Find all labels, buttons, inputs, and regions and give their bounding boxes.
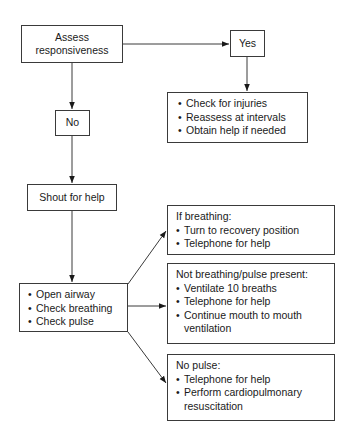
- edge-abc-no-pulse: [128, 332, 166, 383]
- assess-line1: Assess: [55, 31, 89, 45]
- no-node: No: [55, 110, 90, 136]
- yes-node: Yes: [230, 30, 265, 57]
- abc-item: Open airway: [28, 288, 121, 302]
- no-pulse-item: Telephone for help: [176, 373, 328, 387]
- if-breathing-item: Turn to recovery position: [176, 224, 328, 238]
- yes-action-item: Reassess at intervals: [178, 111, 301, 125]
- not-breathing-item: Telephone for help: [176, 295, 328, 309]
- airway-breathing-pulse-node: Open airway Check breathing Check pulse: [19, 283, 128, 332]
- abc-item: Check pulse: [28, 315, 121, 329]
- not-breathing-node: Not breathing/pulse present: Ventilate 1…: [167, 263, 335, 344]
- not-breathing-item: Ventilate 10 breaths: [176, 282, 328, 296]
- no-label: No: [66, 116, 79, 130]
- edge-abc-breathing: [128, 231, 166, 284]
- no-pulse-node: No pulse: Telephone for help Perform car…: [167, 354, 335, 421]
- no-pulse-heading: No pulse:: [176, 359, 328, 373]
- no-pulse-item: Perform cardiopulmonary resuscitation: [176, 386, 328, 413]
- abc-item: Check breathing: [28, 302, 121, 316]
- if-breathing-heading: If breathing:: [176, 210, 328, 224]
- yes-action-item: Check for injuries: [178, 97, 301, 111]
- yes-action-item: Obtain help if needed: [178, 124, 301, 138]
- yes-actions-node: Check for injuries Reassess at intervals…: [167, 92, 308, 143]
- assess-line2: responsiveness: [36, 44, 109, 58]
- not-breathing-heading: Not breathing/pulse present:: [176, 268, 328, 282]
- shout-for-help-node: Shout for help: [27, 184, 117, 211]
- if-breathing-node: If breathing: Turn to recovery position …: [167, 205, 335, 255]
- yes-label: Yes: [239, 37, 256, 51]
- if-breathing-item: Telephone for help: [176, 237, 328, 251]
- not-breathing-item: Continue mouth to mouth ventilation: [176, 309, 328, 336]
- shout-label: Shout for help: [39, 191, 104, 205]
- assess-responsiveness-node: Assess responsiveness: [21, 25, 123, 63]
